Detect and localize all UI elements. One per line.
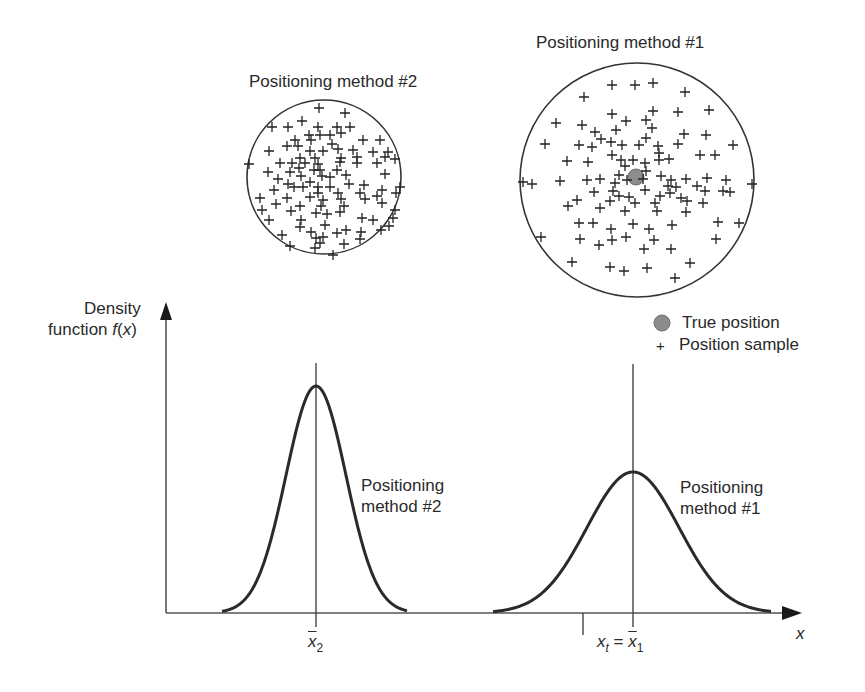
position-sample-plus-icon [304, 130, 314, 140]
position-sample-plus-icon [352, 158, 362, 168]
position-sample-plus-icon [296, 215, 306, 225]
position-sample-plus-icon [264, 146, 274, 156]
position-sample-plus-icon [630, 198, 640, 208]
position-sample-plus-icon [704, 105, 714, 115]
position-sample-plus-icon [315, 130, 325, 140]
position-sample-plus-icon [377, 185, 387, 195]
panel-title-method-1: Positioning method #1 [536, 33, 704, 53]
position-sample-plus-icon [648, 78, 658, 88]
position-sample-plus-icon [282, 193, 292, 203]
position-sample-plus-icon [563, 201, 573, 211]
position-sample-plus-icon [540, 139, 550, 149]
tick-label-equals: = [609, 632, 628, 651]
position-sample-plus-icon [332, 228, 342, 238]
position-sample-plus-icon [372, 191, 382, 201]
position-sample-plus-icon [698, 198, 708, 208]
position-sample-plus-icon [344, 179, 354, 189]
position-sample-plus-icon [607, 235, 617, 245]
position-sample-plus-icon [300, 158, 310, 168]
position-sample-plus-icon [575, 234, 585, 244]
position-sample-plus-icon [718, 186, 728, 196]
position-sample-plus-icon [702, 173, 712, 183]
position-sample-plus-icon [606, 137, 616, 147]
position-sample-plus-icon [322, 209, 332, 219]
position-sample-plus-icon [358, 135, 368, 145]
sample-boundary-circle-2 [247, 100, 401, 254]
position-sample-plus-icon [681, 207, 691, 217]
position-sample-plus-icon [620, 206, 630, 216]
position-sample-plus-icon [579, 92, 589, 102]
position-sample-plus-icon [360, 194, 370, 204]
position-sample-plus-icon [711, 234, 721, 244]
position-sample-plus-icon [357, 213, 367, 223]
position-sample-plus-icon [318, 146, 328, 156]
tick-label-mean-1-sub: 1 [637, 641, 644, 655]
position-sample-plus-icon [670, 273, 680, 283]
position-sample-plus-icon [685, 258, 695, 268]
position-sample-plus-icon [605, 262, 615, 272]
position-sample-plus-icon [605, 196, 615, 206]
position-sample-plus-icon [574, 218, 584, 228]
position-sample-plus-icon [368, 147, 378, 157]
position-sample-plus-icon [341, 170, 351, 180]
position-sample-plus-icon [315, 165, 325, 175]
position-sample-plus-icon [527, 179, 537, 189]
position-sample-plus-icon [588, 218, 598, 228]
position-sample-plus-icon [340, 108, 350, 118]
position-sample-plus-icon [306, 227, 316, 237]
position-sample-plus-icon [314, 103, 324, 113]
position-sample-plus-icon [310, 243, 320, 253]
position-sample-plus-icon [641, 133, 651, 143]
position-sample-plus-icon [666, 244, 676, 254]
position-sample-plus-icon [297, 116, 307, 126]
tick-label-mean-1-var: x [628, 632, 637, 651]
y-axis-label-paren-close: ) [131, 320, 137, 339]
position-sample-plus-icon [551, 118, 561, 128]
position-sample-plus-icon [596, 134, 606, 144]
position-sample-plus-icon [647, 123, 657, 133]
position-sample-plus-icon [640, 185, 650, 195]
tick-label-mean-2: x2 [308, 632, 323, 653]
position-sample-plus-icon [313, 122, 323, 132]
y-axis-label-var: x [123, 320, 132, 339]
tick-label-xt-var: x [597, 632, 606, 651]
position-sample-plus-icon [607, 150, 617, 160]
tick-label-xt-sub: t [606, 641, 609, 655]
position-sample-plus-icon [680, 87, 690, 97]
position-sample-plus-icon [368, 215, 378, 225]
position-sample-plus-icon [701, 130, 711, 140]
scatter-panel-method-1 [518, 63, 757, 297]
position-sample-plus-icon [333, 144, 343, 154]
position-sample-plus-icon [583, 157, 593, 167]
position-sample-plus-icon [667, 220, 677, 230]
position-sample-plus-icon [572, 195, 582, 205]
curve-annotation-method-1-line2: method #1 [680, 499, 760, 519]
position-sample-plus-icon [665, 188, 675, 198]
position-sample-plus-icon [287, 158, 297, 168]
position-sample-plus-icon [644, 224, 654, 234]
position-sample-plus-icon [607, 109, 617, 119]
position-sample-plus-icon [264, 215, 274, 225]
legend-true-position-icon [654, 315, 670, 331]
position-samples-method-2 [244, 103, 405, 260]
position-sample-plus-icon [328, 250, 338, 260]
position-sample-plus-icon [656, 171, 666, 181]
x-axis-label: x [796, 624, 805, 644]
panel-title-method-2: Positioning method #2 [249, 72, 417, 92]
position-sample-plus-icon [282, 141, 292, 151]
position-sample-plus-icon [317, 171, 327, 181]
position-sample-plus-icon [671, 182, 681, 192]
position-sample-plus-icon [577, 120, 587, 130]
y-axis-label-line2: function f(x) [48, 320, 137, 340]
position-sample-plus-icon [655, 191, 665, 201]
position-sample-plus-icon [582, 175, 592, 185]
position-sample-plus-icon [295, 222, 305, 232]
position-sample-plus-icon [614, 191, 624, 201]
position-sample-plus-icon [611, 125, 621, 135]
position-sample-plus-icon [298, 182, 308, 192]
position-sample-plus-icon [589, 187, 599, 197]
position-sample-plus-icon [295, 153, 305, 163]
position-sample-plus-icon [621, 116, 631, 126]
x-axis-arrow-icon [782, 606, 802, 620]
position-sample-plus-icon [595, 174, 605, 184]
